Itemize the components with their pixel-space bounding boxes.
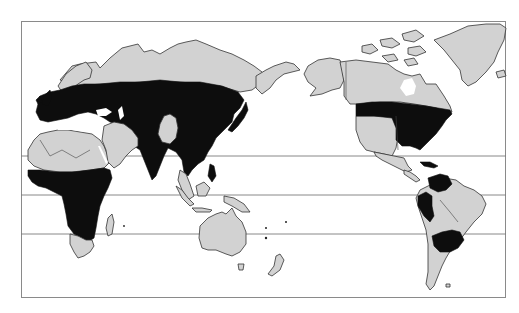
- land-mexico: [374, 152, 412, 172]
- land-new-guinea: [224, 196, 250, 212]
- land-north-africa: [28, 130, 110, 172]
- island-pacific: [285, 221, 287, 223]
- land-borneo: [196, 182, 210, 196]
- island-indian-ocean: [123, 225, 125, 227]
- distribution-sub-saharan-africa: [28, 168, 112, 242]
- land-new-zealand: [268, 254, 284, 276]
- distribution-philippines: [208, 164, 216, 182]
- island-pacific: [265, 227, 267, 229]
- island-pacific: [265, 237, 267, 239]
- land-australia: [199, 208, 246, 256]
- land-arctic-islands-4: [408, 46, 426, 56]
- land-tasmania: [238, 264, 244, 270]
- land-arctic-islands-6: [404, 58, 418, 66]
- land-arctic-islands-1: [362, 44, 378, 54]
- land-alaska: [304, 58, 344, 96]
- land-iceland: [496, 70, 506, 78]
- land-western-us: [356, 116, 398, 156]
- land-central-america: [404, 170, 420, 182]
- land-madagascar: [106, 214, 114, 236]
- land-java: [192, 208, 212, 212]
- land-kamchatka: [256, 62, 300, 94]
- land-greenland: [434, 24, 506, 86]
- distribution-cuba: [420, 162, 438, 168]
- land-arctic-islands-3: [402, 30, 424, 42]
- land-falklands: [446, 284, 450, 287]
- world-map: [0, 0, 519, 313]
- land-arctic-islands-2: [380, 38, 400, 48]
- land-arctic-islands-5: [382, 54, 398, 62]
- distribution-peru-ecuador: [418, 192, 434, 222]
